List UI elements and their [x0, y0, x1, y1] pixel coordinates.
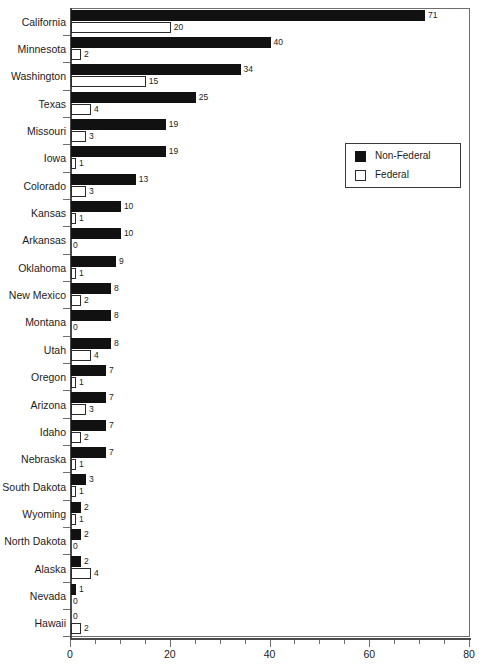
bar-federal-value: 1: [79, 485, 84, 497]
chart-row: Arkansas100: [0, 227, 483, 254]
bar-federal: [71, 295, 81, 306]
category-label: Missouri: [0, 125, 66, 137]
bar-non-federal-wrap: 19: [71, 119, 470, 130]
x-axis-minor-tick: [220, 640, 221, 644]
x-axis-tick-label: 40: [264, 648, 276, 661]
chart-row: Nebraska71: [0, 446, 483, 473]
bar-non-federal-wrap: 8: [71, 283, 470, 294]
bar-non-federal: [71, 338, 111, 349]
category-label: Alaska: [0, 563, 66, 575]
bar-non-federal: [71, 447, 106, 458]
bar-non-federal-value: 10: [124, 200, 133, 212]
category-label: Idaho: [0, 426, 66, 438]
chart-row: Oregon71: [0, 364, 483, 391]
bar-non-federal-wrap: 25: [71, 92, 470, 103]
category-label: Oregon: [0, 371, 66, 383]
bar-federal: [71, 486, 76, 497]
bar-federal-value: 1: [79, 157, 84, 169]
bar-non-federal-value: 2: [84, 501, 89, 513]
bar-non-federal-wrap: 8: [71, 310, 470, 321]
bar-federal: [71, 377, 76, 388]
bar-federal-value: 2: [84, 431, 89, 443]
bar-non-federal-wrap: 40: [71, 37, 470, 48]
chart-row: Arizona73: [0, 391, 483, 418]
bar-non-federal-value: 2: [84, 555, 89, 567]
bar-non-federal-wrap: 7: [71, 392, 470, 403]
bar-federal-value: 4: [94, 349, 99, 361]
bar-non-federal-value: 7: [109, 446, 114, 458]
bar-non-federal-value: 34: [244, 63, 253, 75]
bar-federal-value: 1: [79, 212, 84, 224]
bar-non-federal-wrap: 2: [71, 556, 470, 567]
x-axis-tick-label: 60: [363, 648, 375, 661]
bar-federal-wrap: 1: [71, 377, 470, 388]
category-label: New Mexico: [0, 289, 66, 301]
bar-federal-value: 0: [73, 540, 78, 552]
bar-non-federal-value: 1: [79, 583, 84, 595]
bar-federal-wrap: 1: [71, 514, 470, 525]
bar-federal-wrap: 2: [71, 295, 470, 306]
chart-row: Texas254: [0, 90, 483, 117]
bar-federal-wrap: 20: [71, 22, 470, 33]
bar-non-federal: [71, 201, 121, 212]
category-label: Iowa: [0, 152, 66, 164]
bar-non-federal-value: 9: [119, 255, 124, 267]
chart-row: Idaho72: [0, 418, 483, 445]
bar-federal-wrap: 15: [71, 76, 470, 87]
bar-federal: [71, 76, 146, 87]
bar-federal-wrap: 2: [71, 49, 470, 60]
bar-federal-wrap: 4: [71, 350, 470, 361]
bar-non-federal: [71, 420, 106, 431]
bar-federal: [71, 568, 91, 579]
bar-federal-wrap: 0: [71, 322, 470, 333]
chart-row: Alaska24: [0, 555, 483, 582]
y-axis-tick: [63, 636, 70, 637]
bar-non-federal: [71, 119, 166, 130]
category-label: California: [0, 16, 66, 28]
bar-federal: [71, 268, 76, 279]
bar-non-federal-value: 7: [109, 391, 114, 403]
legend: Non-Federal Federal: [345, 143, 461, 188]
category-label: Montana: [0, 316, 66, 328]
legend-label-federal: Federal: [375, 169, 409, 181]
x-axis-minor-tick: [444, 640, 445, 644]
bar-federal: [71, 350, 91, 361]
bar-non-federal-wrap: 8: [71, 338, 470, 349]
bar-federal: [71, 186, 86, 197]
bar-federal-value: 4: [94, 103, 99, 115]
bar-non-federal: [71, 146, 166, 157]
bar-federal: [71, 22, 171, 33]
bar-non-federal: [71, 529, 81, 540]
bar-federal-wrap: 2: [71, 623, 470, 634]
bar-federal: [71, 514, 76, 525]
bar-non-federal-value: 19: [169, 145, 178, 157]
bar-non-federal-value: 7: [109, 364, 114, 376]
bar-federal-wrap: 3: [71, 131, 470, 142]
legend-item-federal: Federal: [355, 168, 409, 182]
x-axis-major-tick: [270, 640, 271, 647]
bar-federal-wrap: 1: [71, 268, 470, 279]
bar-federal-value: 0: [73, 239, 78, 251]
bar-non-federal: [71, 64, 241, 75]
legend-item-non-federal: Non-Federal: [355, 149, 431, 163]
bar-federal-value: 2: [84, 48, 89, 60]
bar-federal-value: 3: [89, 403, 94, 415]
bar-non-federal-value: 8: [114, 309, 119, 321]
bar-federal-wrap: 0: [71, 240, 470, 251]
category-label: South Dakota: [0, 481, 66, 493]
category-label: Texas: [0, 98, 66, 110]
bar-federal: [71, 158, 76, 169]
bar-non-federal: [71, 556, 81, 567]
bar-federal-value: 4: [94, 567, 99, 579]
bar-non-federal-wrap: 10: [71, 228, 470, 239]
bar-non-federal-value: 3: [89, 473, 94, 485]
bar-non-federal-wrap: 7: [71, 420, 470, 431]
bar-non-federal-wrap: 0: [71, 611, 470, 622]
category-label: Nebraska: [0, 453, 66, 465]
category-label: Washington: [0, 70, 66, 82]
bar-federal-value: 20: [174, 21, 183, 33]
x-axis-minor-tick: [294, 640, 295, 644]
bar-federal-value: 0: [73, 321, 78, 333]
bar-non-federal: [71, 502, 81, 513]
bar-non-federal: [71, 37, 271, 48]
